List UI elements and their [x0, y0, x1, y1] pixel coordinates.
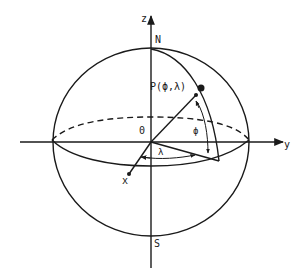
z-axis-label: z [141, 13, 147, 24]
sphere-diagram: z y x N S 0 P(ϕ,λ) ϕ λ [0, 0, 308, 277]
north-label: N [155, 34, 161, 45]
y-axis-label: y [284, 139, 290, 150]
point-p-radius-end [194, 93, 198, 97]
longitude-label: λ [158, 147, 164, 157]
latitude-arc [197, 102, 208, 153]
longitude-arc-start-arrow [141, 157, 150, 158]
latitude-label: ϕ [193, 126, 198, 136]
south-label: S [154, 238, 160, 249]
origin-label: 0 [139, 125, 145, 136]
x-axis-label: x [122, 175, 128, 186]
point-p-label: P(ϕ,λ) [150, 81, 186, 92]
point-p-marker [198, 85, 205, 92]
